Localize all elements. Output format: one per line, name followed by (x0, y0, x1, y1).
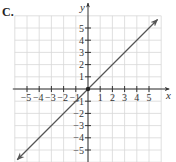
x-axis-label: x (165, 89, 171, 101)
x-tick-label: −3 (45, 92, 56, 103)
y-tick-label: −2 (73, 108, 84, 119)
y-tick-label: 2 (79, 59, 84, 70)
x-tick-label: −2 (57, 92, 68, 103)
coordinate-plane: −5−4−3−2−112345−5−4−3−2−112345 x y (0, 0, 176, 162)
x-tick-label: 2 (110, 92, 115, 103)
y-tick-label: 5 (79, 23, 84, 34)
y-tick-label: −4 (73, 132, 84, 143)
y-tick-label: −5 (73, 145, 84, 156)
origin-point (86, 87, 90, 91)
y-axis-label: y (79, 1, 85, 13)
y-tick-label: 3 (79, 47, 84, 58)
x-tick-label: −4 (33, 92, 44, 103)
x-tick-label: 4 (134, 92, 139, 103)
y-tick-label: 1 (79, 71, 84, 82)
y-tick-label: 4 (79, 35, 84, 46)
x-tick-label: −5 (21, 92, 32, 103)
y-tick-label: −3 (73, 120, 84, 131)
x-tick-label: 3 (122, 92, 127, 103)
x-tick-label: 1 (98, 92, 103, 103)
x-tick-label: 5 (147, 92, 152, 103)
